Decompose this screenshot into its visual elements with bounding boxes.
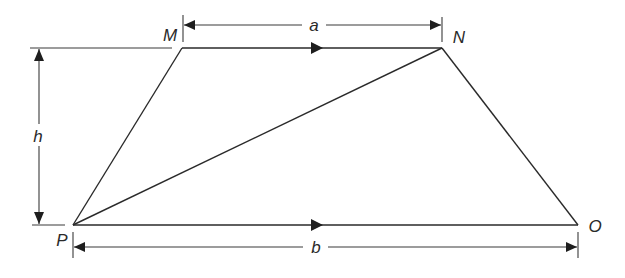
vertex-label-m: M: [163, 26, 178, 45]
dimension-h: h: [30, 48, 172, 225]
vertex-label-n: N: [453, 28, 466, 47]
dimension-a: a: [183, 15, 442, 42]
arrow-po-icon: [311, 219, 323, 231]
trapezium-diagram: a b h M N P O: [0, 0, 625, 278]
vertex-label-o: O: [588, 217, 601, 236]
label-h: h: [33, 127, 42, 146]
vertex-label-p: P: [56, 231, 68, 250]
label-a: a: [309, 16, 318, 35]
diagonal-pn: [73, 48, 442, 225]
label-b: b: [311, 238, 320, 257]
arrowhead-b-left-icon: [74, 242, 85, 252]
arrowhead-h-top-icon: [34, 49, 44, 61]
arrowhead-a-right-icon: [430, 20, 441, 30]
arrowhead-b-right-icon: [566, 242, 577, 252]
trapezium-shape: [73, 48, 578, 225]
edge-no: [442, 48, 578, 225]
arrowhead-h-bottom-icon: [34, 212, 44, 224]
arrowhead-a-left-icon: [184, 20, 195, 30]
dimension-b: b: [73, 232, 578, 258]
arrow-mn-icon: [311, 42, 323, 54]
